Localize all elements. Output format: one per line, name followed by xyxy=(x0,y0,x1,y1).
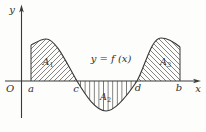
x-point-a-label: a xyxy=(28,83,34,94)
x-point-d-label: d xyxy=(135,82,141,93)
x-axis-label: x xyxy=(195,83,201,94)
region-a3-subscript: 3 xyxy=(167,61,171,69)
y-axis-label: y xyxy=(8,4,15,15)
x-point-b-label: b xyxy=(176,82,182,93)
region-a2-letter: A xyxy=(99,91,107,102)
region-a1-subscript: 1 xyxy=(49,61,53,69)
region-a1-letter: A xyxy=(42,56,50,67)
x-point-c-label: c xyxy=(73,83,79,94)
origin-label: O xyxy=(6,83,14,94)
region-a3-letter: A xyxy=(159,56,167,67)
curve-equation-label: y = f (x) xyxy=(90,53,132,64)
region-a1-shaded-area xyxy=(31,39,77,81)
graph-canvas: y x O a c d b y = f (x) A1 A2 A3 xyxy=(0,0,206,132)
region-a3-shaded-area xyxy=(137,38,180,81)
region-a2-subscript: 2 xyxy=(107,96,111,104)
function-graph-figure: y x O a c d b y = f (x) A1 A2 A3 xyxy=(0,0,206,132)
